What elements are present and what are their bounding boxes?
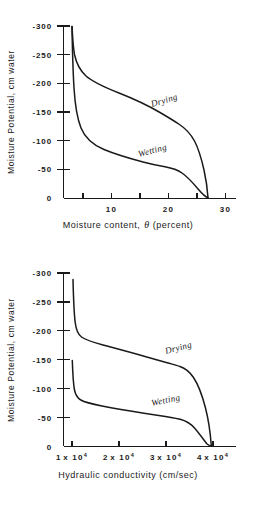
curve-drying [72, 27, 208, 198]
curve-wetting [72, 27, 208, 198]
y-tick-label: -150 [32, 108, 52, 117]
series-label-drying: Drying [149, 91, 179, 109]
figure-container: -300 -250 -200 -150 -100 -50 0 10 20 [0, 0, 257, 507]
y-tick-label: 0 [47, 194, 52, 203]
y-tick-label: -100 [32, 137, 52, 146]
x-tick-label: 4x 104 [197, 452, 229, 463]
y-tick-label: 0 [47, 443, 52, 452]
series-label-wetting: Wetting [137, 142, 168, 159]
x-axis-title-prefix: Moisture content, [63, 220, 141, 230]
theta-symbol: θ [144, 219, 149, 230]
y-tick-label: -250 [32, 51, 52, 60]
x-tick-label: 20 [163, 205, 174, 214]
hydraulic-conductivity-svg: -300 -250 -200 -150 -100 -50 0 1x 104 [0, 250, 257, 507]
x-axis-tick-labels: 1x 104 2x 104 3x 104 4x 104 [56, 452, 229, 463]
chart-hydraulic-conductivity: -300 -250 -200 -150 -100 -50 0 1x 104 [0, 250, 257, 507]
x-axis-title-suffix: (percent) [153, 220, 194, 230]
y-tick-label: -300 [32, 22, 52, 31]
chart-moisture-retention: -300 -250 -200 -150 -100 -50 0 10 20 [0, 0, 257, 250]
x-tick-label: 2x 104 [103, 452, 135, 463]
y-tick-label: -150 [32, 356, 52, 365]
x-tick-label: 30 [220, 205, 231, 214]
x-tick-label: 1x 104 [56, 452, 88, 463]
y-tick-label: -300 [32, 269, 52, 278]
y-tick-label: -250 [32, 298, 52, 307]
y-axis-tick-labels: -300 -250 -200 -150 -100 -50 0 [32, 269, 52, 452]
series-label-wetting: Wetting [150, 392, 181, 408]
x-axis-tick-labels: 10 20 30 [106, 205, 231, 214]
y-tick-label: -200 [32, 79, 52, 88]
y-tick-label: -50 [38, 414, 52, 423]
series-label-drying: Drying [163, 339, 193, 356]
y-tick-label: -50 [38, 165, 52, 174]
y-tick-label: -200 [32, 327, 52, 336]
y-axis-title: Moisture Potential, cm water [6, 298, 16, 422]
moisture-retention-svg: -300 -250 -200 -150 -100 -50 0 10 20 [0, 0, 257, 250]
y-tick-label: -100 [32, 385, 52, 394]
x-axis-title: Hydraulic conductivity (cm/sec) [58, 470, 198, 480]
curve-drying [73, 280, 211, 446]
y-axis-tick-labels: -300 -250 -200 -150 -100 -50 0 [32, 22, 52, 203]
x-tick-label: 10 [106, 205, 117, 214]
svg-text:Moisture content,θ(percent): Moisture content,θ(percent) [63, 219, 193, 230]
x-axis-title: Moisture content,θ(percent) [63, 219, 193, 230]
x-tick-label: 3x 104 [150, 452, 182, 463]
y-axis-title: Moisture Potential, cm water [6, 50, 16, 174]
